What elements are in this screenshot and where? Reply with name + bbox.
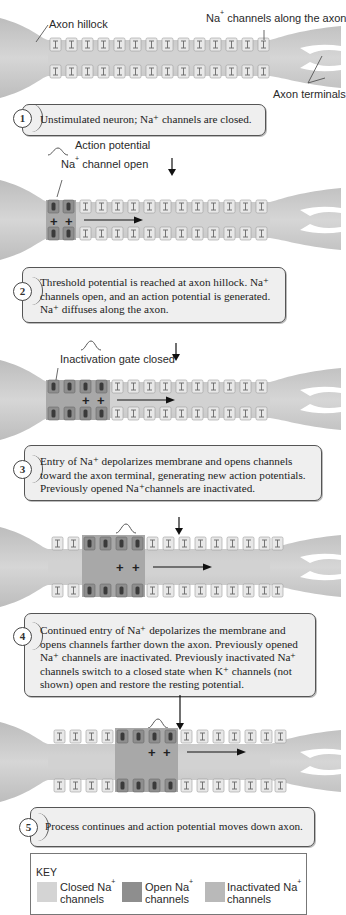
step-4-number: 4 — [13, 627, 32, 646]
plus-sign: + — [132, 560, 140, 575]
inactivated-channel-swatch — [205, 882, 225, 902]
step-1-text: Unstimulated neuron; Na⁺ channels are cl… — [40, 113, 252, 127]
step-3-text: Entry of Na⁺ depolarizes membrane and op… — [40, 455, 306, 496]
plus-sign: + — [82, 393, 90, 408]
step-4-line: Na⁺ channels are inactivated. Previously… — [40, 651, 298, 665]
label-part: Na — [61, 158, 75, 170]
label-sup: + — [189, 878, 193, 885]
na-channels-along-axon-label: Na+ channels along the axon — [206, 12, 346, 24]
step-4-line: opens channels farther down the axon. Pr… — [40, 638, 298, 652]
axon-terminals-label: Axon terminals — [273, 88, 346, 100]
step-4-line: Continued entry of Na⁺ depolarizes the m… — [40, 624, 298, 638]
step-2-line: Na⁺ diffuses along the axon. — [40, 303, 270, 317]
step-5-text: Process continues and action potential m… — [45, 820, 303, 834]
step-4-line: shown) open and restore the resting pote… — [40, 678, 298, 692]
plus-sign: + — [148, 745, 156, 760]
closed-channel-swatch — [37, 882, 57, 902]
axon-diagram-4 — [0, 527, 341, 607]
plus-sign: + — [65, 214, 73, 229]
label-sup: + — [111, 878, 115, 885]
key-open-label: Open Na+ channels — [145, 881, 193, 905]
step-3-number: 3 — [13, 460, 32, 479]
action-potential-label: Action potential — [75, 139, 150, 151]
axon-diagram-5 — [0, 722, 341, 802]
label-part: channel open — [79, 158, 148, 170]
step-1-number: 1 — [13, 109, 32, 128]
step-4-text: Continued entry of Na⁺ depolarizes the m… — [40, 624, 298, 692]
step-3-line: toward the axon terminal, generating new… — [40, 469, 306, 483]
label-part: Na — [206, 12, 220, 24]
key-title: KEY — [36, 866, 57, 878]
step-2-number: 2 — [13, 282, 32, 301]
label-part: channels along the axon — [224, 12, 346, 24]
plus-sign: + — [116, 560, 124, 575]
key-inactivated-label: Inactivated Na+ channels — [227, 881, 301, 905]
step-5-number: 5 — [19, 818, 38, 837]
step-3-line: Previously opened Na⁺channels are inacti… — [40, 482, 306, 496]
na-channel-open-label: Na+ channel open — [61, 158, 148, 170]
label-part: Closed Na — [60, 881, 111, 893]
axon-hillock-label: Axon hillock — [49, 18, 108, 30]
step-4-line: channels switch to a closed state when K… — [40, 665, 298, 679]
open-channel-swatch — [122, 882, 142, 902]
plus-sign: + — [97, 393, 105, 408]
step-3-line: Entry of Na⁺ depolarizes membrane and op… — [40, 455, 306, 469]
label-sup: + — [220, 9, 224, 16]
plus-sign: + — [50, 214, 58, 229]
label-part: channels — [60, 893, 104, 905]
label-sup: + — [75, 155, 79, 162]
label-part: Inactivated Na — [227, 881, 297, 893]
step-2-line: channels open, and an action potential i… — [40, 290, 270, 304]
axon-diagram-3 — [0, 360, 341, 440]
step-2-text: Threshold potential is reached at axon h… — [40, 276, 270, 317]
plus-sign: + — [163, 745, 171, 760]
label-part: channels — [227, 893, 271, 905]
down-arrow-icon — [168, 158, 176, 180]
axon-diagram-1 — [0, 18, 341, 98]
step-2-line: Threshold potential is reached at axon h… — [40, 276, 270, 290]
label-part: channels — [145, 893, 189, 905]
label-part: Open Na — [145, 881, 189, 893]
label-sup: + — [297, 878, 301, 885]
key-closed-label: Closed Na+ channels — [60, 881, 115, 905]
